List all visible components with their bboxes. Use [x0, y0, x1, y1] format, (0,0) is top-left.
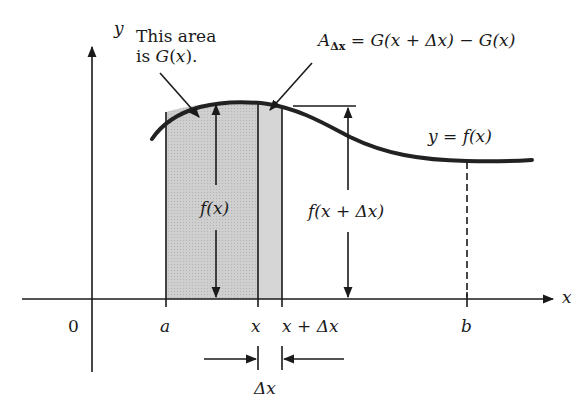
height-fx-label: f(x): [200, 200, 229, 217]
delta-area-pointer: [270, 63, 312, 110]
delta-area-rhs: = G(x + Δx) − G(x): [351, 30, 515, 50]
origin-label: 0: [68, 318, 79, 335]
area-label-Gx: G: [156, 46, 170, 66]
tick-label-b: b: [461, 318, 472, 335]
curve-label: y = f(x): [428, 128, 492, 145]
diagram-canvas: [0, 0, 585, 416]
tick-label-x-plus-dx: x + Δx: [282, 318, 339, 335]
y-axis-label: y: [114, 20, 124, 37]
area-delta-region: [258, 103, 282, 299]
tick-label-x: x: [251, 318, 261, 335]
tick-label-a: a: [160, 318, 170, 335]
delta-area-label: AΔx = G(x + Δx) − G(x): [318, 32, 515, 52]
area-label-line2: is G(x).: [136, 48, 197, 65]
x-axis-label: x: [562, 289, 572, 306]
delta-area-sub: Δx: [330, 40, 345, 53]
delta-x-label: Δx: [254, 380, 276, 397]
delta-area-A: A: [318, 30, 330, 50]
height-fxdx-label: f(x + Δx): [306, 203, 386, 220]
area-label-line1: This area: [136, 28, 216, 45]
